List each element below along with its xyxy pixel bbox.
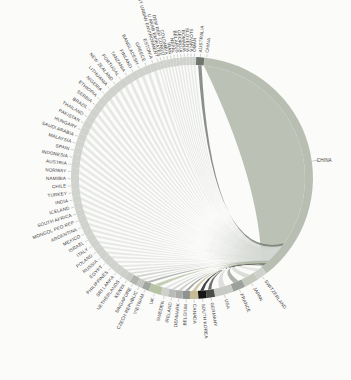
country-arc [190, 291, 198, 299]
country-label: NAMIBIA [46, 176, 67, 181]
country-arc [72, 189, 81, 197]
country-arc [71, 182, 79, 189]
country-arc [183, 291, 191, 299]
country-arc [193, 57, 196, 65]
chord-diagram-figure: SWITZERLANDJAPANFRANCEUSAGERMANYSOUTH KO… [0, 0, 351, 380]
country-arc [189, 57, 192, 65]
country-arc [198, 290, 207, 299]
country-arc [206, 289, 215, 298]
country-arc [175, 290, 183, 299]
country-label: BELGIUM [182, 304, 188, 326]
country-label: CHILE [52, 183, 67, 189]
country-arc [71, 175, 79, 182]
country-label: CANADA [192, 304, 197, 325]
country-arc [196, 57, 204, 66]
chord-diagram: SWITZERLANDJAPANFRANCEUSAGERMANYSOUTH KO… [0, 0, 351, 380]
country-arc [71, 168, 79, 175]
country-arc [71, 161, 80, 169]
country-arc [186, 57, 190, 65]
china-right-label: CHINA [317, 158, 333, 163]
country-label: OMAN [192, 38, 197, 52]
country-arc [183, 57, 187, 65]
